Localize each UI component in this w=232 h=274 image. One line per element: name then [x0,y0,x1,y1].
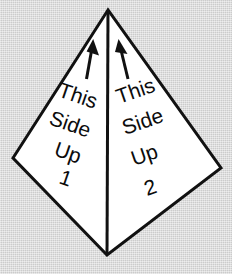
orientation-diagram: This Side Up 1 This Side Up 2 [0,0,232,274]
figure-canvas: This Side Up 1 This Side Up 2 [0,0,232,274]
center-divider-line [107,10,108,255]
